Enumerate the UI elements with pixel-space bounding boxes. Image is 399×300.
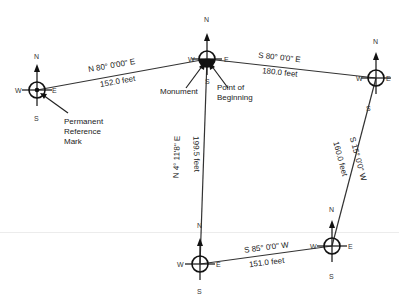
se-east-label: E bbox=[348, 243, 353, 250]
course-5-distance: 199.5 feet bbox=[191, 136, 200, 172]
compass-ne-corner-icon bbox=[361, 52, 391, 94]
ne-north-label: N bbox=[373, 38, 378, 45]
compass-reference-mark-icon bbox=[22, 64, 52, 106]
ne-south-label: S bbox=[366, 105, 371, 112]
compass-se-corner-icon bbox=[317, 220, 347, 262]
ne-west-label: W bbox=[356, 75, 363, 82]
monument-label: Monument bbox=[160, 88, 198, 96]
se-west-label: W bbox=[310, 243, 317, 250]
compass-monument-icon bbox=[192, 33, 222, 75]
monument-north-label: N bbox=[204, 16, 209, 23]
sw-north-label: N bbox=[197, 222, 202, 229]
sw-east-label: E bbox=[216, 261, 221, 268]
ref-east-label: E bbox=[52, 87, 57, 94]
ref-west-label: W bbox=[15, 87, 22, 94]
sw-south-label: S bbox=[197, 288, 202, 295]
ref-south-label: S bbox=[34, 115, 39, 122]
reference-mark-label: Permanent Reference Mark bbox=[64, 117, 103, 147]
point-of-beginning-label: Point of Beginning bbox=[217, 83, 253, 103]
ref-north-label: N bbox=[34, 53, 39, 60]
monument-east-label: E bbox=[224, 56, 229, 63]
se-north-label: N bbox=[329, 206, 334, 213]
monument-south-label: S bbox=[205, 78, 210, 85]
course-5-bearing: N 4° 11'8" E bbox=[173, 136, 182, 179]
se-south-label: S bbox=[329, 273, 334, 280]
compass-sw-corner-icon bbox=[185, 238, 215, 280]
monument-west-label: W bbox=[188, 56, 195, 63]
sw-west-label: W bbox=[177, 261, 184, 268]
ne-east-label: E bbox=[386, 75, 391, 82]
